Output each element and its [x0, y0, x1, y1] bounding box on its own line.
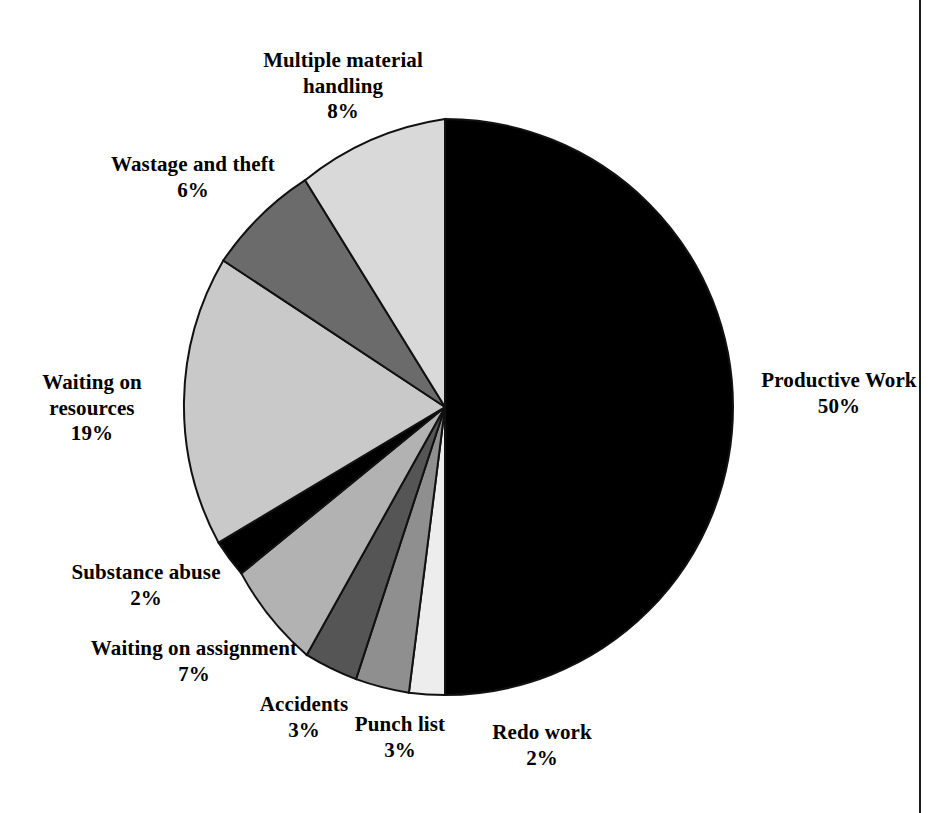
- pie-label-percent: 6%: [86, 178, 300, 204]
- pie-label-name-line1: Waiting on: [42, 370, 142, 394]
- pie-label-punch-list: Punch list 3%: [330, 712, 470, 763]
- pie-label-name: Wastage and theft: [111, 152, 275, 176]
- pie-label-name: Waiting on assignment: [91, 636, 297, 660]
- pie-label-percent: 2%: [472, 746, 612, 772]
- pie-chart-figure: Multiple material handling 8% Wastage an…: [0, 0, 938, 813]
- pie-label-name-line2: handling: [303, 74, 383, 98]
- pie-slices: [184, 119, 733, 695]
- pie-label-multiple-material-handling: Multiple material handling 8%: [258, 48, 428, 125]
- pie-label-percent: 2%: [44, 586, 248, 612]
- pie-label-substance-abuse: Substance abuse 2%: [44, 560, 248, 611]
- pie-label-name: Productive Work: [761, 368, 916, 392]
- pie-label-name-line1: Multiple material: [263, 48, 423, 72]
- pie-label-waiting-on-resources: Waiting on resources 19%: [22, 370, 162, 447]
- pie-label-percent: 8%: [258, 99, 428, 125]
- pie-label-productive-work: Productive Work 50%: [744, 368, 934, 419]
- pie-label-name: Redo work: [492, 720, 591, 744]
- pie-label-name-line2: resources: [49, 396, 134, 420]
- pie-label-percent: 7%: [56, 662, 332, 688]
- pie-label-wastage-and-theft: Wastage and theft 6%: [86, 152, 300, 203]
- pie-label-name: Punch list: [355, 712, 445, 736]
- pie-label-percent: 3%: [330, 738, 470, 764]
- pie-slice-productive-work[interactable]: [445, 119, 733, 695]
- pie-label-waiting-on-assignment: Waiting on assignment 7%: [56, 636, 332, 687]
- pie-label-percent: 19%: [22, 421, 162, 447]
- page-edge-rule: [919, 0, 921, 813]
- pie-label-percent: 50%: [744, 394, 934, 420]
- pie-label-redo-work: Redo work 2%: [472, 720, 612, 771]
- pie-label-name: Substance abuse: [71, 560, 220, 584]
